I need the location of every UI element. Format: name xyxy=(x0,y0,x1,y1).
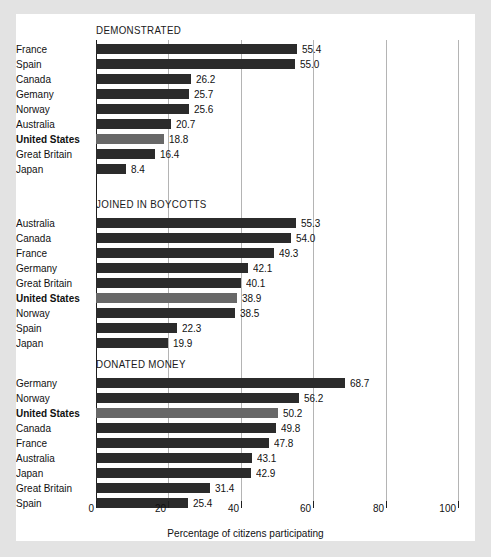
bar xyxy=(96,218,296,228)
x-axis-tick-label: 20 xyxy=(126,503,166,514)
category-label: Australia xyxy=(16,452,88,465)
bar xyxy=(96,323,177,333)
chart-row: Australia43.1 xyxy=(16,451,475,466)
bar xyxy=(96,378,345,388)
category-label: Japan xyxy=(16,467,88,480)
chart-row: Japan19.9 xyxy=(16,336,475,351)
bar xyxy=(96,408,278,418)
bar xyxy=(96,393,299,403)
chart-row: Gemany25.7 xyxy=(16,87,475,102)
bar-value-label: 38.5 xyxy=(240,307,259,320)
chart-row: Norway56.2 xyxy=(16,391,475,406)
bar-value-label: 8.4 xyxy=(131,163,145,176)
x-axis-tick-label: 100 xyxy=(416,503,456,514)
bar xyxy=(96,453,252,463)
chart-row: France55.4 xyxy=(16,42,475,57)
bar xyxy=(96,134,164,144)
x-axis-tick-label: 60 xyxy=(271,503,311,514)
bar xyxy=(96,293,237,303)
category-label: United States xyxy=(16,407,88,420)
chart-row: Norway25.6 xyxy=(16,102,475,117)
category-label: Germany xyxy=(16,262,88,275)
chart-row: Japan8.4 xyxy=(16,162,475,177)
chart-figure: DEMONSTRATEDFrance55.4Spain55.0Canada26.… xyxy=(16,14,475,541)
x-axis-tick xyxy=(241,501,242,508)
bar xyxy=(96,164,126,174)
bar xyxy=(96,248,274,258)
bar-value-label: 55.4 xyxy=(302,43,321,56)
chart-row: Great Britain40.1 xyxy=(16,276,475,291)
category-label: France xyxy=(16,437,88,450)
bar-value-label: 20.7 xyxy=(176,118,195,131)
panel-title: DONATED MONEY xyxy=(96,358,186,370)
bar-value-label: 42.9 xyxy=(256,467,275,480)
category-label: Spain xyxy=(16,58,88,71)
chart-row: Australia20.7 xyxy=(16,117,475,132)
panel-title: JOINED IN BOYCOTTS xyxy=(96,198,207,210)
category-label: Germany xyxy=(16,377,88,390)
chart-row: France47.8 xyxy=(16,436,475,451)
bar-value-label: 54.0 xyxy=(296,232,315,245)
bar-value-label: 19.9 xyxy=(173,337,192,350)
category-label: Australia xyxy=(16,118,88,131)
bar-value-label: 68.7 xyxy=(350,377,369,390)
x-axis-tick xyxy=(168,501,169,508)
category-label: Canada xyxy=(16,73,88,86)
category-label: France xyxy=(16,43,88,56)
bar xyxy=(96,59,295,69)
bar xyxy=(96,438,269,448)
category-label: Great Britain xyxy=(16,482,88,495)
category-label: Canada xyxy=(16,232,88,245)
bar xyxy=(96,74,191,84)
panel-title: DEMONSTRATED xyxy=(96,24,181,36)
chart-row: France49.3 xyxy=(16,246,475,261)
chart-row: United States38.9 xyxy=(16,291,475,306)
x-axis-tick-label: 40 xyxy=(199,503,239,514)
category-label: France xyxy=(16,247,88,260)
category-label: Gemany xyxy=(16,88,88,101)
bar-value-label: 50.2 xyxy=(283,407,302,420)
bar xyxy=(96,149,155,159)
chart-row: United States50.2 xyxy=(16,406,475,421)
chart-plot-area: DEMONSTRATEDFrance55.4Spain55.0Canada26.… xyxy=(16,14,475,541)
x-axis-tick-label: 0 xyxy=(54,503,94,514)
x-axis-tick xyxy=(386,501,387,508)
chart-row: Germany68.7 xyxy=(16,376,475,391)
bar xyxy=(96,468,251,478)
chart-row: Canada54.0 xyxy=(16,231,475,246)
chart-row: Japan42.9 xyxy=(16,466,475,481)
bar xyxy=(96,89,189,99)
bar-value-label: 25.6 xyxy=(194,103,213,116)
bar xyxy=(96,233,291,243)
bar xyxy=(96,278,241,288)
category-label: Japan xyxy=(16,163,88,176)
bar xyxy=(96,44,297,54)
category-label: Canada xyxy=(16,422,88,435)
bar-value-label: 47.8 xyxy=(274,437,293,450)
bar-value-label: 55.0 xyxy=(300,58,319,71)
bar-value-label: 18.8 xyxy=(169,133,188,146)
category-label: United States xyxy=(16,292,88,305)
chart-row: Australia55.3 xyxy=(16,216,475,231)
chart-row: Spain55.0 xyxy=(16,57,475,72)
category-label: Australia xyxy=(16,217,88,230)
category-label: Great Britain xyxy=(16,277,88,290)
chart-row: Great Britain16.4 xyxy=(16,147,475,162)
bar-value-label: 38.9 xyxy=(242,292,261,305)
chart-row: United States18.8 xyxy=(16,132,475,147)
x-axis-tick xyxy=(458,501,459,508)
bar xyxy=(96,104,189,114)
chart-row: Canada26.2 xyxy=(16,72,475,87)
chart-row: Canada49.8 xyxy=(16,421,475,436)
x-axis-label: Percentage of citizens participating xyxy=(25,527,466,539)
bar-value-label: 26.2 xyxy=(196,73,215,86)
bar-value-label: 31.4 xyxy=(215,482,234,495)
bar xyxy=(96,119,171,129)
bar-value-label: 43.1 xyxy=(257,452,276,465)
bar xyxy=(96,263,248,273)
x-axis-tick xyxy=(96,501,97,508)
bar-value-label: 16.4 xyxy=(160,148,179,161)
chart-row: Great Britain31.4 xyxy=(16,481,475,496)
category-label: Norway xyxy=(16,307,88,320)
x-axis-tick xyxy=(313,501,314,508)
